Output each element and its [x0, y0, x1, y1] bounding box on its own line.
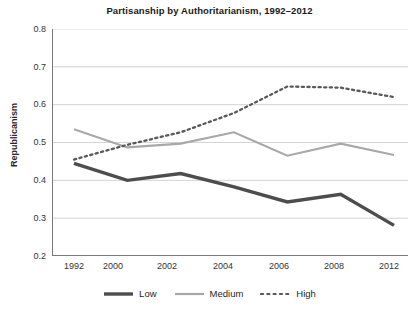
- chart-figure: Partisanship by Authoritarianism, 1992–2…: [0, 0, 419, 311]
- series-lines: [74, 87, 394, 226]
- legend-item-low[interactable]: Low: [103, 288, 156, 299]
- legend-label-medium: Medium: [210, 288, 244, 299]
- legend-item-medium[interactable]: Medium: [174, 288, 244, 299]
- legend-item-high[interactable]: High: [260, 288, 316, 299]
- series-line-low: [74, 163, 394, 225]
- series-line-high: [74, 87, 394, 160]
- x-tick-5: 2008: [311, 261, 357, 271]
- x-tick-4: 2006: [256, 261, 302, 271]
- legend-swatch-low-icon: [103, 289, 134, 299]
- gridlines: [52, 29, 408, 256]
- legend-label-low: Low: [139, 288, 156, 299]
- y-tick-1: 0.7: [16, 62, 46, 72]
- chart-title: Partisanship by Authoritarianism, 1992–2…: [0, 5, 419, 16]
- legend-label-high: High: [296, 288, 316, 299]
- y-tick-5: 0.3: [16, 213, 46, 223]
- legend-swatch-high-icon: [260, 289, 291, 299]
- y-tick-3: 0.5: [16, 137, 46, 147]
- y-tick-4: 0.4: [16, 175, 46, 185]
- y-tick-6: 0.2: [16, 251, 46, 261]
- plot-area: [52, 29, 408, 256]
- chart-legend: Low Medium High: [0, 288, 419, 299]
- x-tick-2: 2002: [144, 261, 190, 271]
- plot-svg: [52, 29, 408, 256]
- x-tick-6: 2012: [366, 261, 412, 271]
- y-tick-2: 0.6: [16, 99, 46, 109]
- x-tick-3: 2004: [200, 261, 246, 271]
- y-tick-0: 0.8: [16, 24, 46, 34]
- legend-swatch-medium-icon: [174, 289, 205, 299]
- x-tick-1: 2000: [90, 261, 136, 271]
